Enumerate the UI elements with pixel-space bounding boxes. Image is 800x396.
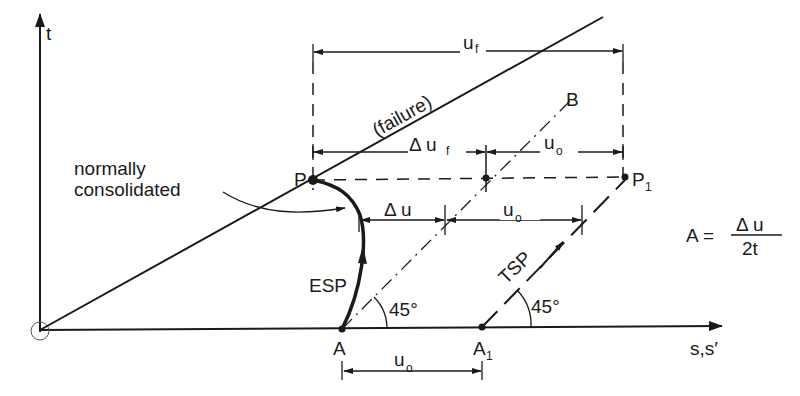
point-a: [339, 326, 346, 333]
point-intersect: [483, 175, 490, 182]
point-p1: [622, 174, 629, 181]
angle-arc-esp: [374, 297, 387, 329]
svg-text:u: u: [463, 32, 474, 53]
svg-text:o: o: [515, 211, 522, 225]
tsp-label: TSP: [494, 247, 535, 288]
formula-a: A = Δ u 2t: [686, 214, 782, 259]
esp-arrow-icon: [358, 246, 367, 264]
dimension-uo-top: u o: [487, 132, 623, 160]
esp-label: ESP: [309, 275, 347, 296]
effective-stress-path: [313, 180, 363, 329]
point-b-label: B: [566, 89, 579, 110]
p-to-p1-dashed: [313, 177, 625, 180]
point-p1-sub: 1: [645, 180, 652, 194]
svg-text:o: o: [556, 144, 563, 158]
angle-arc-tsp: [518, 291, 531, 327]
stress-path-diagram: t s,s′ (failure) B TSP ESP P P 1 A A 1 n…: [0, 0, 800, 396]
dimension-delta-u: Δ u: [359, 199, 445, 235]
dimension-uf: u f: [313, 32, 623, 62]
svg-text:u: u: [394, 349, 405, 370]
dimension-delta-uf: Δ u f: [313, 134, 485, 160]
svg-text:o: o: [406, 361, 413, 375]
point-a1-label: A: [473, 338, 486, 359]
svg-text:u: u: [503, 199, 514, 220]
svg-text:Δ u: Δ u: [409, 134, 437, 155]
svg-text:f: f: [475, 42, 479, 56]
svg-text:Δ u: Δ u: [384, 199, 412, 220]
nc-label-line1: normally: [74, 158, 146, 179]
point-p: [308, 175, 318, 185]
dimension-uo-bottom: u o: [342, 349, 482, 380]
svg-text:A =: A =: [686, 225, 714, 246]
point-p1-label: P: [632, 169, 645, 190]
s-axis: [40, 326, 722, 330]
point-p-label: P: [294, 169, 307, 190]
angle-tsp-label: 45°: [531, 296, 560, 317]
svg-text:2t: 2t: [742, 238, 759, 259]
t-axis-label: t: [46, 23, 52, 44]
svg-text:Δ u: Δ u: [736, 214, 764, 235]
s-axis-label: s,s′: [690, 338, 718, 359]
nc-label-line2: consolidated: [74, 179, 181, 200]
angle-esp-label: 45°: [389, 299, 418, 320]
tsp-arrow: [540, 242, 563, 268]
point-a-label: A: [333, 338, 346, 359]
svg-text:u: u: [544, 132, 555, 153]
point-a1: [479, 324, 486, 331]
point-a1-sub: 1: [486, 349, 493, 363]
